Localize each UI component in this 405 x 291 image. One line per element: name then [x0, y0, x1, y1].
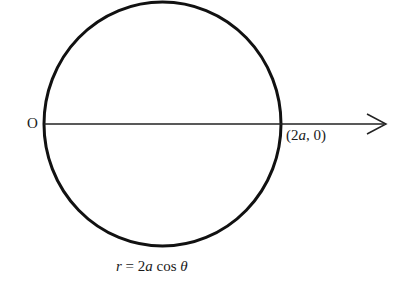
point-label-coef: 2	[291, 127, 299, 143]
origin-label: O	[27, 115, 38, 132]
caption-theta: θ	[180, 258, 187, 274]
caption-eq: = 2	[122, 258, 145, 274]
caption-a: a	[145, 258, 153, 274]
caption-cos: cos	[153, 258, 181, 274]
point-label: (2a, 0)	[286, 127, 326, 144]
equation-caption: r = 2a cos θ	[116, 258, 188, 275]
point-label-var: a	[299, 127, 307, 143]
polar-circle-diagram	[0, 0, 405, 291]
point-label-rest: , 0)	[306, 127, 326, 143]
